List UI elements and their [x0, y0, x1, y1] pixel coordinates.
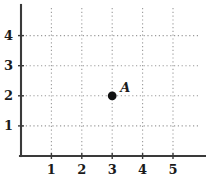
- x-axis-label-5: 5: [166, 163, 180, 176]
- coordinate-plane-figure: 12345 1234 A: [0, 0, 206, 177]
- y-axis-label-1: 1: [0, 119, 13, 132]
- x-axis-label-2: 2: [75, 163, 89, 176]
- x-axis-label-4: 4: [136, 163, 150, 176]
- axis-ticks: [18, 36, 173, 159]
- plot-area: 12345 1234 A: [0, 0, 206, 177]
- axis-lines: [20, 5, 206, 156]
- data-points: [108, 91, 117, 100]
- point-label-a: A: [120, 81, 130, 94]
- vertical-gridlines: [51, 8, 173, 155]
- data-point-a: [108, 91, 117, 100]
- plot-canvas: [0, 0, 206, 177]
- y-axis-label-4: 4: [0, 29, 13, 42]
- y-axis-label-2: 2: [0, 89, 13, 102]
- y-axis-label-3: 3: [0, 59, 13, 72]
- x-axis-label-1: 1: [44, 163, 58, 176]
- x-axis-label-3: 3: [105, 163, 119, 176]
